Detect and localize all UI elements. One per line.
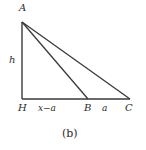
vertex-label-a: A	[19, 3, 26, 13]
vertex-label-c: C	[125, 103, 133, 113]
height-label-h: h	[9, 55, 15, 65]
segment-label-a: a	[102, 104, 107, 113]
vertex-label-h: H	[18, 103, 27, 113]
geometry-figure: A H B C h x−a a (b)	[0, 0, 146, 150]
segment-a-c	[22, 22, 130, 99]
figure-caption: (b)	[62, 128, 78, 139]
vertex-label-b: B	[84, 103, 91, 113]
segment-a-b	[22, 22, 88, 99]
segment-label-x-minus-a: x−a	[38, 104, 56, 113]
